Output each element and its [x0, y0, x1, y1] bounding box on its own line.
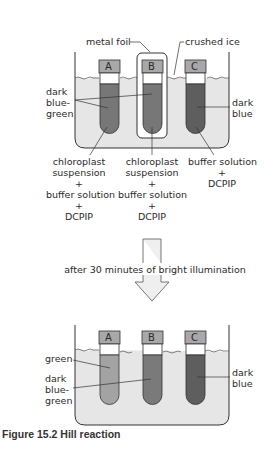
dark-blue-green-label-bottom: dark blue- green — [45, 373, 72, 406]
hill-reaction-diagram — [0, 0, 267, 455]
tube-c-contents: buffer solution + DCPIP — [188, 156, 256, 189]
dark-blue-label-bottom: dark blue — [232, 367, 253, 389]
tube-b-label-bottom: B — [148, 332, 155, 343]
tube-c-label: C — [191, 61, 198, 72]
top-beaker — [65, 42, 230, 155]
tube-a-label: A — [105, 61, 112, 72]
tube-a-contents: chloroplast suspension + buffer solution… — [46, 156, 112, 222]
dark-blue-label-top: dark blue — [232, 97, 253, 119]
green-label-bottom: green — [45, 353, 72, 364]
tube-c-label-bottom: C — [191, 332, 198, 343]
figure-caption: Figure 15.2 Hill reaction — [2, 428, 120, 440]
tube-a-label-bottom: A — [105, 332, 112, 343]
dark-blue-green-label-top: dark blue- green — [46, 86, 73, 119]
metal-foil-label: metal foil — [86, 36, 131, 47]
tube-b-contents: chloroplast suspension + buffer solution… — [118, 156, 186, 222]
tube-b-label: B — [148, 61, 155, 72]
crushed-ice-label: crushed ice — [185, 36, 240, 47]
transition-text: after 30 minutes of bright illumination — [60, 264, 250, 275]
